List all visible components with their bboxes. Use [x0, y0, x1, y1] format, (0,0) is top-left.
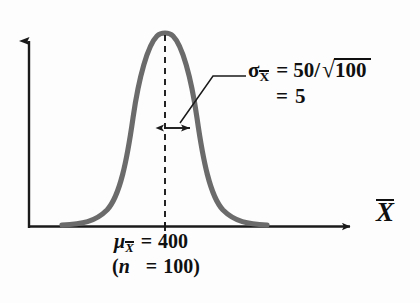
x-axis-label: X — [376, 198, 394, 226]
mu-value: 400 — [158, 230, 188, 252]
x-axis-label-text: X — [376, 198, 394, 226]
result-equals: = — [276, 84, 288, 108]
sigma-numerator: 50 — [293, 58, 314, 82]
radicand-value: 100 — [335, 58, 367, 81]
n-open-paren: ( — [112, 255, 119, 277]
mu-subscript: X — [125, 241, 134, 255]
standard-error-result-line: =5 — [276, 86, 366, 107]
standard-error-formula-line: σX=50/√100 — [248, 58, 366, 85]
sigma-symbol: σ — [248, 58, 259, 82]
sampling-distribution-figure: σX=50/√100 =5 X μX=400 (n=100) — [0, 0, 420, 303]
n-equals: = — [146, 255, 157, 277]
sigma-equals: = — [276, 58, 288, 82]
sample-size-label: (n=100) — [112, 256, 200, 276]
mean-value-label: μX=400 — [114, 231, 188, 255]
mu-symbol: μ — [114, 230, 125, 252]
n-value: 100 — [163, 255, 193, 277]
mu-equals: = — [141, 230, 152, 252]
n-close-paren: ) — [193, 255, 200, 277]
sigma-subscript: X — [259, 69, 269, 83]
n-symbol: n — [119, 255, 130, 277]
standard-error-annotation: σX=50/√100 =5 — [248, 58, 366, 107]
result-value: 5 — [295, 84, 306, 108]
radical-group: √100 — [320, 58, 366, 82]
figure-canvas — [0, 0, 420, 303]
